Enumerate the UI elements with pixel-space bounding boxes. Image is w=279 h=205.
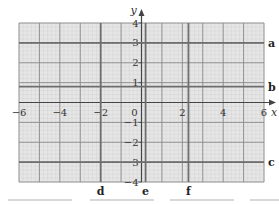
y-axis-label: y: [130, 4, 138, 17]
x-tick-label: 4: [220, 107, 226, 118]
footer-divider: [170, 199, 234, 201]
line-label-c: c: [268, 156, 275, 169]
line-label-b: b: [268, 81, 276, 94]
line-label-a: a: [268, 37, 275, 50]
line-label-d: d: [97, 185, 105, 198]
line-label-f: f: [186, 185, 192, 198]
y-tick-label: −4: [124, 177, 139, 188]
x-tick-label: −6: [12, 107, 27, 118]
y-tick-label: 4: [132, 18, 138, 29]
footer-divider: [90, 199, 154, 201]
footer-divider: [250, 199, 279, 201]
x-tick-label: 2: [179, 107, 185, 118]
x-axis-label: x: [271, 106, 278, 119]
coordinate-grid-chart: xy−6−4−224604321−1−2−3−4abcdef: [0, 0, 279, 205]
y-axis-arrow-icon: [139, 9, 145, 16]
origin-label: 0: [131, 107, 137, 118]
y-tick-label: −1: [124, 117, 139, 128]
x-tick-label: 6: [261, 107, 267, 118]
line-label-e: e: [142, 185, 149, 198]
y-tick-label: −2: [124, 137, 139, 148]
y-tick-label: 2: [132, 57, 138, 68]
x-tick-label: −4: [52, 107, 67, 118]
footer-divider: [8, 199, 72, 201]
